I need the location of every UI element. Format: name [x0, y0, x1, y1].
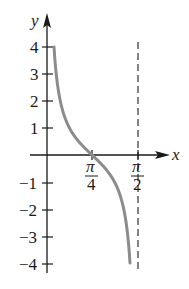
svg-text:2: 2 [30, 92, 39, 111]
y-axis-label: y [29, 11, 39, 30]
svg-text:1: 1 [30, 119, 39, 138]
x-axis-label: x [171, 145, 180, 164]
svg-text:π: π [132, 157, 141, 176]
svg-text:−2: −2 [19, 201, 37, 220]
x-tick-label-pi-4: π 4 [85, 157, 98, 194]
y-tick-labels: 4 3 2 1 −1 −2 −3 −4 [19, 38, 39, 274]
svg-text:4: 4 [30, 38, 39, 57]
svg-text:π: π [86, 157, 95, 176]
x-tick-label-pi-2: π 2 [131, 157, 144, 194]
svg-text:4: 4 [87, 175, 96, 194]
svg-text:−4: −4 [19, 255, 38, 274]
svg-text:−3: −3 [19, 228, 37, 247]
svg-text:3: 3 [30, 65, 39, 84]
graph: y x 4 3 2 1 −1 −2 −3 −4 π 4 π 2 [0, 0, 189, 289]
svg-text:−1: −1 [19, 174, 37, 193]
svg-text:2: 2 [133, 175, 142, 194]
